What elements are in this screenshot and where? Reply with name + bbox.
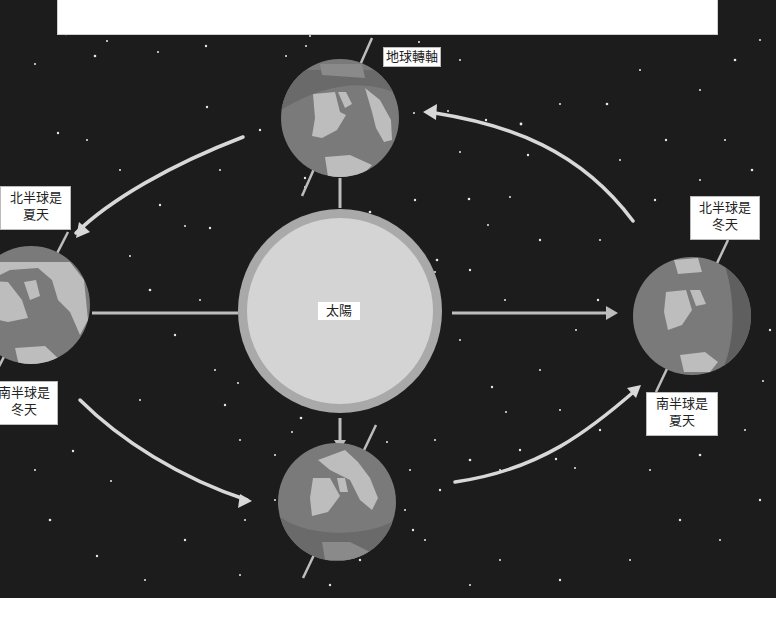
left-north-line2: 夏天	[6, 206, 65, 223]
left-south-line2: 冬天	[0, 401, 52, 418]
right-south-line1: 南半球是	[652, 395, 712, 412]
right-south-line2: 夏天	[652, 412, 712, 429]
earth-bottom	[278, 425, 396, 578]
arrowhead-top	[423, 104, 437, 120]
right-north-label: 北半球是 冬天	[690, 196, 760, 240]
arrow-right-to-top	[435, 113, 633, 221]
earth-left	[0, 232, 90, 380]
right-north-line2: 冬天	[696, 216, 754, 233]
sun-label: 太陽	[318, 302, 360, 320]
left-north-line1: 北半球是	[6, 189, 65, 206]
orbit-diagram	[0, 0, 776, 598]
arrow-left-to-bottom	[80, 400, 247, 500]
earth-right	[633, 240, 760, 392]
right-north-line1: 北半球是	[696, 199, 754, 216]
axis-label-text: 地球轉軸	[386, 49, 438, 64]
axis-label: 地球轉軸	[383, 47, 441, 67]
left-north-label: 北半球是 夏天	[0, 186, 71, 230]
arrowhead-bottom	[238, 494, 252, 508]
left-south-line1: 南半球是	[0, 384, 52, 401]
arrow-top-to-left	[76, 137, 243, 233]
arrow-bottom-to-right	[455, 389, 637, 482]
right-south-label: 南半球是 夏天	[646, 392, 718, 436]
ray-arrowhead-right	[606, 306, 618, 320]
left-south-label: 南半球是 冬天	[0, 381, 58, 425]
bottom-blank-area	[0, 598, 776, 623]
